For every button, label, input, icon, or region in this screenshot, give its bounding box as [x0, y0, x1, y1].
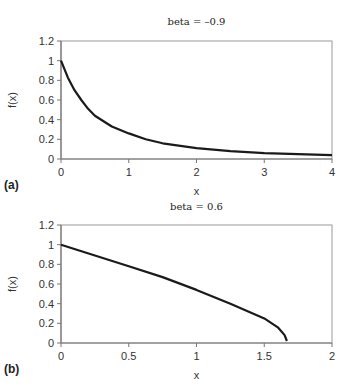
y-tick-label: 1.2: [39, 35, 54, 47]
y-tick-label: 0: [48, 153, 54, 165]
y-tick-label: 1.2: [39, 219, 54, 231]
panel-label: (b): [4, 362, 19, 376]
chart-panel-a: 00.20.40.60.811.201234beta = –0.9xf(x)(a…: [4, 16, 335, 197]
y-tick-label: 0.6: [39, 278, 54, 290]
chart-panel-b: 00.20.40.60.811.200.511.52beta = 0.6xf(x…: [4, 201, 335, 381]
panel-label: (a): [4, 178, 19, 192]
x-tick-label: 1: [193, 350, 199, 362]
x-axis-label: x: [194, 185, 200, 197]
x-tick-label: 2: [329, 350, 335, 362]
x-tick-label: 0: [58, 166, 64, 178]
data-line: [61, 245, 287, 341]
chart-title: beta = 0.6: [170, 201, 223, 212]
x-tick-label: 1.5: [257, 350, 272, 362]
data-line: [61, 61, 332, 155]
y-tick-label: 0.4: [39, 114, 54, 126]
y-tick-label: 1: [48, 55, 54, 67]
plot-area: [61, 41, 332, 159]
x-tick-label: 0: [58, 350, 64, 362]
y-axis-label: f(x): [6, 92, 18, 108]
y-tick-label: 0.6: [39, 94, 54, 106]
x-tick-label: 4: [329, 166, 335, 178]
chart-title: beta = –0.9: [168, 16, 226, 27]
y-tick-label: 0.8: [39, 258, 54, 270]
y-tick-label: 0.2: [39, 133, 54, 145]
chart-canvas: 00.20.40.60.811.201234beta = –0.9xf(x)(a…: [0, 0, 357, 392]
x-tick-label: 0.5: [121, 350, 136, 362]
y-tick-label: 0.2: [39, 317, 54, 329]
y-tick-label: 0: [48, 337, 54, 349]
y-tick-label: 0.8: [39, 74, 54, 86]
x-tick-label: 1: [126, 166, 132, 178]
x-axis-label: x: [194, 369, 200, 381]
y-tick-label: 1: [48, 239, 54, 251]
y-tick-label: 0.4: [39, 298, 54, 310]
x-tick-label: 2: [193, 166, 199, 178]
y-axis-label: f(x): [6, 276, 18, 292]
plot-area: [61, 225, 332, 343]
x-tick-label: 3: [261, 166, 267, 178]
